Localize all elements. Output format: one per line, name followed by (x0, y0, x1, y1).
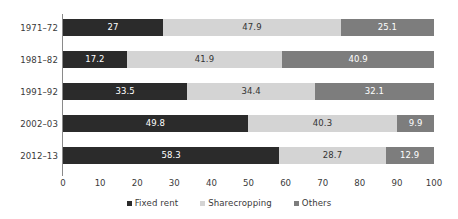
bar-row: 33.534.432.1 (63, 83, 434, 100)
bar-value-label: 41.9 (195, 55, 214, 64)
bar-value-label: 12.9 (400, 151, 419, 160)
bar-segment-fixed-rent: 17.2 (63, 51, 127, 68)
legend-label: Sharecropping (208, 198, 272, 208)
x-axis-tick-label: 40 (206, 178, 217, 188)
bar-value-label: 17.2 (85, 55, 104, 64)
bar-segment-others: 12.9 (386, 147, 434, 164)
bar-value-label: 25.1 (378, 23, 397, 32)
bar-segment-others: 40.9 (282, 51, 434, 68)
x-axis-tick-label: 60 (280, 178, 291, 188)
x-axis-tick-label: 0 (60, 178, 65, 188)
category-label: 1971–72 (4, 19, 58, 36)
bar-segment-others: 9.9 (397, 115, 434, 132)
plot-area: 2747.925.117.241.940.933.534.432.149.840… (63, 14, 434, 176)
legend-swatch-icon (200, 201, 205, 206)
bar-segment-fixed-rent: 33.5 (63, 83, 187, 100)
bar-segment-sharecropping: 28.7 (279, 147, 385, 164)
bar-segment-sharecropping: 41.9 (127, 51, 282, 68)
x-axis-tick-label: 30 (169, 178, 180, 188)
bar-segment-fixed-rent: 49.8 (63, 115, 248, 132)
bar-segment-fixed-rent: 27 (63, 19, 163, 36)
bar-value-label: 34.4 (241, 87, 260, 96)
category-label: 1991–92 (4, 83, 58, 100)
category-label: 2012–13 (4, 147, 58, 164)
category-label: 1981–82 (4, 51, 58, 68)
legend-item-others[interactable]: Others (294, 198, 331, 208)
chart-legend: Fixed rentSharecroppingOthers (0, 198, 458, 208)
x-axis-tick-label: 10 (95, 178, 106, 188)
legend-label: Others (302, 198, 331, 208)
stacked-bar-chart: 2747.925.117.241.940.933.534.432.149.840… (0, 0, 458, 219)
bar-value-label: 9.9 (409, 119, 423, 128)
bar-segment-sharecropping: 40.3 (248, 115, 398, 132)
bar-row: 49.840.39.9 (63, 115, 434, 132)
bar-segment-sharecropping: 47.9 (163, 19, 341, 36)
legend-swatch-icon (127, 201, 132, 206)
legend-item-fixed-rent[interactable]: Fixed rent (127, 198, 178, 208)
x-axis-tick-label: 80 (354, 178, 365, 188)
legend-label: Fixed rent (135, 198, 178, 208)
bar-value-label: 32.1 (365, 87, 384, 96)
bar-row: 17.241.940.9 (63, 51, 434, 68)
bar-value-label: 47.9 (242, 23, 261, 32)
legend-item-sharecropping[interactable]: Sharecropping (200, 198, 272, 208)
bar-value-label: 40.9 (348, 55, 367, 64)
bar-segment-others: 25.1 (341, 19, 434, 36)
x-axis-tick-label: 50 (243, 178, 254, 188)
bar-row: 2747.925.1 (63, 19, 434, 36)
bar-value-label: 58.3 (161, 151, 180, 160)
bar-value-label: 40.3 (313, 119, 332, 128)
bar-segment-others: 32.1 (315, 83, 434, 100)
x-axis: 0102030405060708090100 (63, 176, 434, 190)
bar-value-label: 28.7 (323, 151, 342, 160)
bar-value-label: 33.5 (115, 87, 134, 96)
bar-value-label: 27 (108, 23, 119, 32)
bar-segment-fixed-rent: 58.3 (63, 147, 279, 164)
x-axis-tick-label: 70 (317, 178, 328, 188)
x-axis-tick-label: 90 (391, 178, 402, 188)
x-axis-tick-label: 100 (426, 178, 442, 188)
category-label: 2002–03 (4, 115, 58, 132)
bar-segment-sharecropping: 34.4 (187, 83, 315, 100)
bar-row: 58.328.712.9 (63, 147, 434, 164)
bar-value-label: 49.8 (146, 119, 165, 128)
legend-swatch-icon (294, 201, 299, 206)
x-axis-tick-label: 20 (132, 178, 143, 188)
